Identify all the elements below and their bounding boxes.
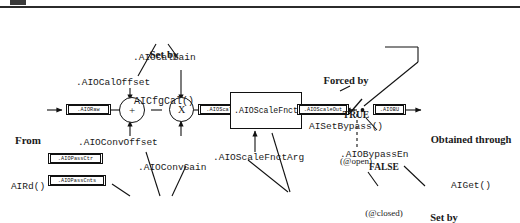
block-aiopassctr-label: .AIOPassCtr — [58, 156, 93, 162]
source-line1: From — [6, 134, 50, 146]
block-aioscalefnct-label: .AIOScaleFnct — [234, 106, 298, 115]
block-aiopassctr[interactable]: .AIOPassCtr — [48, 153, 103, 164]
annotation-aiocalgain: .AIOCalGain — [133, 53, 196, 64]
aicfgcal-fn: AICfgCal() — [105, 96, 223, 107]
output-line1: Obtained through — [424, 134, 518, 146]
block-aioraw-label: .AIORaw — [77, 107, 100, 113]
source-label: From AIRd() — [6, 98, 50, 223]
source-line2: AIRd() — [6, 182, 50, 193]
annotation-set-by-aisetbypassen: Set by AISetBypassEn() — [372, 176, 516, 223]
annotation-set-by-aicfgconv: Set by AICfgConv() — [104, 189, 228, 223]
diagram-canvas: .AIORaw + X .AIOScaleIn .AIOScaleFnct .A… — [0, 0, 520, 223]
annotation-aioconvoffset: .AIOConvOffset — [78, 138, 158, 149]
aisetbypassen-set-by-label: Set by — [372, 212, 516, 223]
block-aiopasscnts-label: .AIOPassCnts — [58, 178, 97, 184]
block-aioscalefnct[interactable]: .AIOScaleFnct — [230, 92, 302, 129]
annotation-aiobypassen: .AIOBypassEn — [340, 150, 408, 161]
switch-true-label: TRUE — [328, 110, 384, 121]
annotation-aioconvgain: .AIOConvGain — [138, 163, 206, 174]
annotation-aiocaloffset: .AIOCalOffset — [76, 78, 150, 89]
annotation-aioscalefnctarg: .AIOScaleFnctArg — [213, 153, 304, 164]
switch-false-label: FALSE — [353, 162, 415, 173]
block-aiopasscnts[interactable]: .AIOPassCnts — [48, 175, 106, 186]
